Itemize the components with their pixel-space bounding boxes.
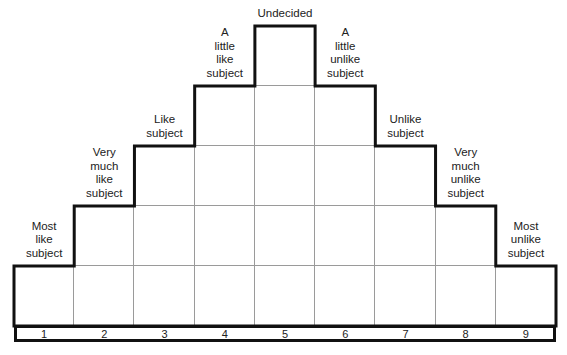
column-label-4: A little like subject — [207, 26, 243, 80]
column-label-3: Like subject — [146, 113, 182, 140]
column-number-5: 5 — [282, 326, 288, 341]
column-label-2: Very much like subject — [86, 146, 122, 200]
column-number-6: 6 — [342, 326, 348, 341]
column-number-3: 3 — [161, 326, 167, 341]
column-number-1: 1 — [41, 326, 47, 341]
column-label-8: Very much unlike subject — [447, 146, 483, 200]
column-number-7: 7 — [402, 326, 408, 341]
column-number-8: 8 — [463, 326, 469, 341]
q-sort-diagram: Most like subject Very much like subject… — [0, 0, 567, 355]
column-label-6: A little unlike subject — [327, 26, 363, 80]
column-number-2: 2 — [101, 326, 107, 341]
column-label-7: Unlike subject — [387, 113, 423, 140]
column-label-9: Most unlike subject — [508, 220, 544, 261]
column-number-9: 9 — [523, 326, 529, 341]
column-label-5: Undecided — [258, 7, 313, 21]
column-number-4: 4 — [222, 326, 228, 341]
column-label-1: Most like subject — [26, 220, 62, 261]
